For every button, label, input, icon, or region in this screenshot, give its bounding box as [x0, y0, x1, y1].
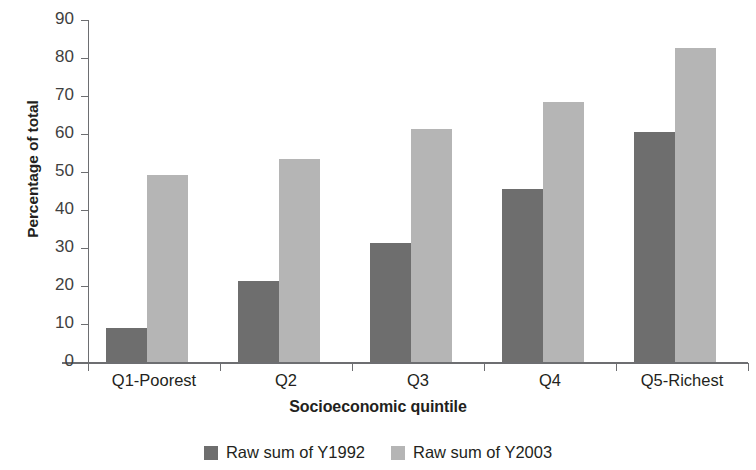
bar	[675, 48, 716, 362]
legend-item-label: Raw sum of Y2003	[413, 443, 552, 462]
x-axis-tick-label: Q1-Poorest	[112, 371, 196, 390]
legend-item-label: Raw sum of Y1992	[226, 443, 365, 462]
x-axis-tick	[748, 363, 749, 371]
y-axis-tick-label: 40	[28, 199, 74, 219]
y-axis-tick-label: 30	[28, 237, 74, 257]
x-axis-tick	[352, 363, 353, 371]
x-axis-tick	[220, 363, 221, 371]
y-axis-tick	[81, 324, 88, 325]
legend-item: Raw sum of Y2003	[391, 443, 552, 462]
bar	[106, 328, 147, 362]
y-axis-tick	[81, 96, 88, 97]
legend-item: Raw sum of Y1992	[204, 443, 365, 462]
chart-legend: Raw sum of Y1992Raw sum of Y2003	[0, 443, 756, 462]
x-axis-line	[62, 362, 748, 364]
y-axis-tick	[81, 362, 88, 363]
y-axis-tick-label: 60	[28, 123, 74, 143]
bar	[147, 175, 188, 362]
bar	[370, 243, 411, 362]
y-axis-tick	[81, 134, 88, 135]
x-axis-tick-label: Q4	[539, 371, 561, 390]
y-axis-tick	[81, 58, 88, 59]
bar	[502, 189, 543, 362]
y-axis-tick	[81, 286, 88, 287]
y-axis-tick-label: 10	[28, 313, 74, 333]
bar-chart-figure: Percentage of total 0102030405060708090 …	[0, 0, 756, 470]
plot-area	[88, 20, 748, 362]
bars-layer	[88, 20, 748, 362]
x-axis-tick	[88, 363, 89, 371]
bar	[279, 159, 320, 362]
bar	[238, 281, 279, 362]
y-axis-tick	[81, 210, 88, 211]
y-axis-tick	[81, 248, 88, 249]
x-axis-tick-label: Q2	[275, 371, 297, 390]
y-axis-tick-label: 20	[28, 275, 74, 295]
y-axis-tick-label: 70	[28, 85, 74, 105]
x-axis-tick	[484, 363, 485, 371]
y-axis-tick-label: 90	[28, 9, 74, 29]
y-axis-tick-label: 50	[28, 161, 74, 181]
bar	[411, 129, 452, 362]
x-axis-title: Socioeconomic quintile	[0, 398, 756, 416]
bar	[634, 132, 675, 362]
x-axis-tick	[616, 363, 617, 371]
x-axis-tick-label: Q5-Richest	[641, 371, 724, 390]
dark-gray-swatch	[204, 446, 218, 460]
light-gray-swatch	[391, 446, 405, 460]
y-axis-tick	[81, 172, 88, 173]
y-axis-tick-label: 0	[28, 351, 74, 371]
y-axis-tick-label: 80	[28, 47, 74, 67]
y-axis-tick	[81, 20, 88, 21]
bar	[543, 102, 584, 362]
x-axis-tick-label: Q3	[407, 371, 429, 390]
